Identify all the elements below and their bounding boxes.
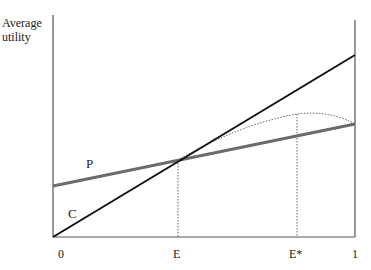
x-tick-e: E <box>173 247 180 261</box>
x-tick-0: 0 <box>58 247 64 261</box>
dotted-curve <box>178 113 355 160</box>
line-c-label: C <box>68 206 77 221</box>
line-p-label: P <box>86 156 93 171</box>
x-tick-1: 1 <box>352 247 358 261</box>
x-tick-e-star: E* <box>289 247 302 261</box>
utility-chart: P C 0 E E* 1 <box>0 0 371 270</box>
line-p <box>53 124 355 186</box>
line-c <box>53 55 355 237</box>
